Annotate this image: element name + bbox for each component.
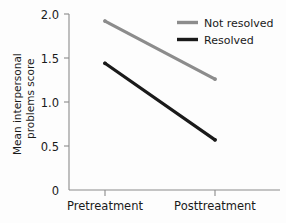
x-tick-label-pretreatment: Pretreatment (67, 199, 143, 213)
y-tick-label-0.5: 0.5 (41, 140, 59, 154)
legend-label-resolved: Resolved (204, 34, 254, 47)
legend-label-not-resolved: Not resolved (204, 17, 274, 30)
data-point-resolved-pretreatment (103, 61, 107, 65)
data-point-resolved-posttreatment (213, 138, 217, 142)
y-tick-label-0: 0 (52, 184, 59, 198)
chart-figure: 2.0 1.5 1.0 0.5 0 Mean interpersonal pro… (0, 0, 286, 223)
x-tick-label-posttreatment: Posttreatment (174, 199, 256, 213)
y-tick-label-1.5: 1.5 (41, 52, 59, 66)
line-chart: 2.0 1.5 1.0 0.5 0 Mean interpersonal pro… (0, 0, 286, 223)
data-point-not-resolved-posttreatment (213, 77, 217, 81)
y-axis-title-line1: Mean interpersonal (11, 53, 23, 155)
y-tick-label-2.0: 2.0 (41, 8, 59, 22)
y-axis-title-line2: problems score (24, 59, 36, 139)
data-point-not-resolved-pretreatment (103, 19, 107, 23)
y-tick-label-1.0: 1.0 (41, 96, 59, 110)
